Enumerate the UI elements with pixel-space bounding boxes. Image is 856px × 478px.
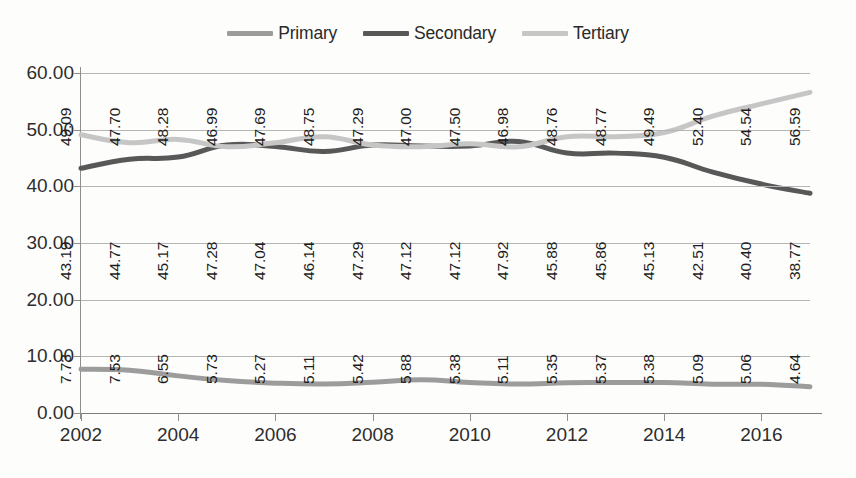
x-axis-tick — [81, 413, 82, 421]
y-axis-tick — [74, 186, 81, 187]
legend-swatch-icon — [522, 31, 568, 36]
data-label-secondary: 47.04 — [251, 242, 269, 280]
x-axis-tick-label: 2016 — [740, 424, 782, 446]
data-label-primary: 5.35 — [543, 354, 561, 384]
data-label-secondary: 47.92 — [494, 242, 512, 280]
x-axis-tick-label: 2008 — [351, 424, 393, 446]
legend-item-primary[interactable]: Primary — [227, 23, 337, 44]
data-label-secondary: 46.14 — [300, 242, 318, 280]
y-axis-tick — [74, 300, 81, 301]
data-label-tertiary: 46.99 — [203, 108, 221, 146]
data-label-primary: 5.42 — [349, 354, 367, 384]
data-label-tertiary: 46.98 — [494, 108, 512, 146]
data-label-tertiary: 47.69 — [251, 108, 269, 146]
data-label-primary: 5.27 — [251, 354, 269, 384]
y-axis-tick — [74, 413, 81, 414]
data-label-tertiary: 48.28 — [154, 108, 172, 146]
legend-item-label: Primary — [278, 23, 337, 44]
legend-item-label: Secondary — [414, 23, 496, 44]
data-label-tertiary: 52.40 — [689, 108, 707, 146]
x-axis-tick-label: 2010 — [449, 424, 491, 446]
data-label-tertiary: 48.77 — [592, 108, 610, 146]
data-label-secondary: 47.28 — [203, 242, 221, 280]
data-label-secondary: 45.86 — [592, 242, 610, 280]
x-axis-tick-label: 2014 — [643, 424, 685, 446]
x-axis-tick — [470, 413, 471, 421]
data-label-primary: 7.53 — [106, 354, 124, 384]
gridline — [81, 300, 810, 301]
data-label-tertiary: 47.50 — [446, 108, 464, 146]
data-label-primary: 5.06 — [737, 354, 755, 384]
data-label-secondary: 40.40 — [737, 242, 755, 280]
x-axis-tick — [761, 413, 762, 421]
y-axis-tick — [74, 73, 81, 74]
data-label-primary: 5.88 — [397, 354, 415, 384]
legend-item-secondary[interactable]: Secondary — [363, 23, 496, 44]
x-axis-tick-label: 2004 — [157, 424, 199, 446]
legend-item-label: Tertiary — [573, 23, 629, 44]
y-axis-tick — [74, 130, 81, 131]
data-label-primary: 5.11 — [300, 355, 318, 384]
data-label-secondary: 44.77 — [106, 242, 124, 280]
x-axis-tick-label: 2002 — [60, 424, 102, 446]
gridline — [81, 73, 810, 74]
gridline — [81, 186, 810, 187]
data-label-primary: 5.37 — [592, 354, 610, 384]
data-label-primary: 5.38 — [446, 354, 464, 384]
legend-swatch-icon — [363, 31, 409, 36]
data-label-secondary: 42.51 — [689, 242, 707, 280]
y-axis-tick — [74, 356, 81, 357]
data-label-secondary: 43.19 — [57, 242, 75, 280]
data-label-tertiary: 47.29 — [349, 108, 367, 146]
line-chart: PrimarySecondaryTertiary 0.0010.0020.003… — [0, 0, 856, 478]
data-label-tertiary: 47.70 — [106, 108, 124, 146]
data-label-primary: 7.73 — [57, 354, 75, 384]
data-label-tertiary: 49.49 — [640, 108, 658, 146]
y-axis-tick-label: 20.00 — [4, 289, 74, 311]
x-axis-tick — [178, 413, 179, 421]
data-label-tertiary: 48.76 — [543, 108, 561, 146]
y-axis-tick — [74, 243, 81, 244]
data-label-primary: 4.64 — [786, 354, 804, 384]
data-label-tertiary: 54.54 — [737, 108, 755, 146]
data-label-tertiary: 47.00 — [397, 108, 415, 146]
y-axis-tick-label: 0.00 — [4, 402, 74, 424]
data-label-tertiary: 49.09 — [57, 108, 75, 146]
data-label-secondary: 45.13 — [640, 242, 658, 280]
data-label-primary: 5.09 — [689, 354, 707, 384]
data-label-tertiary: 56.59 — [786, 108, 804, 146]
data-label-secondary: 45.17 — [154, 242, 172, 280]
data-label-secondary: 38.77 — [786, 242, 804, 280]
data-label-secondary: 47.12 — [397, 242, 415, 280]
data-label-tertiary: 48.75 — [300, 108, 318, 146]
data-label-primary: 5.11 — [494, 355, 512, 384]
data-label-secondary: 47.29 — [349, 242, 367, 280]
x-axis-tick — [275, 413, 276, 421]
chart-legend: PrimarySecondaryTertiary — [0, 20, 856, 46]
x-axis-tick — [664, 413, 665, 421]
data-label-primary: 6.55 — [154, 354, 172, 384]
x-axis-tick — [567, 413, 568, 421]
x-axis-tick-label: 2006 — [254, 424, 296, 446]
legend-swatch-icon — [227, 31, 273, 36]
x-axis-tick-label: 2012 — [546, 424, 588, 446]
x-axis-labels: 20022004200620082010201220142016 — [81, 424, 841, 454]
y-axis-tick-label: 40.00 — [4, 175, 74, 197]
data-label-primary: 5.73 — [203, 354, 221, 384]
x-axis-tick — [373, 413, 374, 421]
data-label-secondary: 45.88 — [543, 242, 561, 280]
y-axis-tick-label: 60.00 — [4, 62, 74, 84]
legend-item-tertiary[interactable]: Tertiary — [522, 23, 629, 44]
x-axis-line — [80, 413, 822, 414]
data-label-secondary: 47.12 — [446, 242, 464, 280]
data-label-primary: 5.38 — [640, 354, 658, 384]
